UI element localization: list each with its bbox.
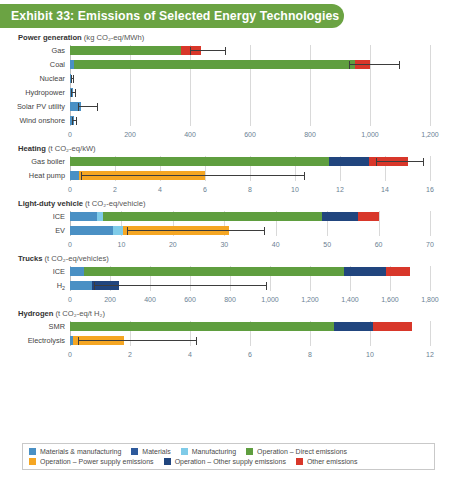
- error-bar-cap: [349, 61, 350, 69]
- error-bar-cap: [266, 282, 267, 290]
- legend-swatch-icon: [246, 448, 253, 455]
- gridline: [430, 45, 431, 126]
- category-label: H2: [57, 280, 65, 294]
- category-label: Hydropower: [25, 87, 65, 98]
- gridline: [310, 45, 311, 126]
- bar-segment: [84, 267, 344, 276]
- error-bar-cap: [72, 117, 73, 125]
- axis-tick-label: 16: [426, 186, 434, 193]
- axis-tick-label: 800: [224, 296, 236, 303]
- axis-tick-label: 400: [144, 296, 156, 303]
- stacked-bar: [70, 116, 430, 125]
- axis-tick-label: 2: [128, 351, 132, 358]
- error-bar: [94, 285, 266, 286]
- bar-row: Coal: [70, 59, 430, 70]
- legend-item: Operation – Direct emissions: [246, 448, 347, 455]
- bars-container: Gas boilerHeat pump: [70, 156, 430, 181]
- bar-segment: [373, 322, 412, 331]
- category-label: Gas: [51, 45, 65, 56]
- bar-segment: [329, 157, 370, 166]
- legend-swatch-icon: [29, 448, 36, 455]
- error-bar-cap: [75, 89, 76, 97]
- chart-legend: Materials & manufacturingMaterialsManufa…: [22, 443, 435, 470]
- axis-tick-label: 14: [381, 186, 389, 193]
- legend-swatch-icon: [131, 448, 138, 455]
- axis-tick-label: 20: [169, 241, 177, 248]
- gridline: [430, 266, 431, 291]
- stacked-bar: [70, 212, 430, 221]
- axis-tick-label: 0: [68, 351, 72, 358]
- axis-tick-label: 70: [426, 241, 434, 248]
- bar-segment: [113, 226, 123, 235]
- category-label: ICE: [53, 211, 65, 222]
- bar-segment: [70, 281, 92, 290]
- bar-row: Electrolysis: [70, 335, 430, 346]
- axis-tick-label: 10: [366, 351, 374, 358]
- chart-panels: Power generation (kg CO₂-eq/MWh)GasCoalN…: [0, 33, 457, 364]
- panel-title: Light-duty vehicle (t CO₂-eq/vehicle): [0, 199, 457, 208]
- chart-panel-hydrogen: Hydrogen (t CO₂-eq/t H₂)SMRElectrolysis0…: [0, 309, 457, 362]
- axis-tick-label: 30: [220, 241, 228, 248]
- plot-area: Gas boilerHeat pump0246810121416: [70, 156, 430, 197]
- x-axis: 02004006008001,0001,2001,4001,6001,800: [70, 294, 430, 307]
- legend-swatch-icon: [29, 458, 36, 465]
- axis-tick-label: 40: [272, 241, 280, 248]
- axis-tick-label: 0: [68, 241, 72, 248]
- error-bar-cap: [97, 103, 98, 111]
- error-bar-cap: [94, 282, 95, 290]
- exhibit-header: Exhibit 33: Emissions of Selected Energy…: [0, 4, 344, 28]
- bar-row: Nuclear: [70, 73, 430, 84]
- error-bar-cap: [376, 158, 377, 166]
- legend-label: Materials: [142, 448, 170, 455]
- gridline: [250, 45, 251, 126]
- axis-tick-label: 12: [336, 186, 344, 193]
- legend-label: Other emissions: [307, 458, 358, 465]
- category-label: Nuclear: [40, 73, 65, 84]
- category-label: Solar PV utility: [17, 101, 65, 112]
- error-bar: [78, 340, 197, 341]
- plot-area: ICEEV010203040506070: [70, 211, 430, 252]
- bar-segment: [70, 157, 329, 166]
- gridline: [190, 45, 191, 126]
- panel-title: Hydrogen (t CO₂-eq/t H₂): [0, 309, 457, 318]
- category-label: Gas boiler: [31, 156, 65, 167]
- legend-label: Operation – Other supply emissions: [175, 458, 286, 465]
- bars-container: SMRElectrolysis: [70, 321, 430, 346]
- page-title: Exhibit 33: Emissions of Selected Energy…: [0, 9, 339, 23]
- legend-item: Operation – Other supply emissions: [164, 458, 286, 465]
- error-bar-cap: [76, 117, 77, 125]
- legend-label: Operation – Direct emissions: [257, 448, 347, 455]
- error-bar-cap: [304, 172, 305, 180]
- bar-segment: [386, 267, 410, 276]
- error-bar: [78, 106, 98, 107]
- axis-tick-label: 600: [244, 131, 256, 138]
- bar-row: Gas boiler: [70, 156, 430, 167]
- axis-tick-label: 6: [248, 351, 252, 358]
- error-bar-cap: [78, 103, 79, 111]
- legend-item: Materials & manufacturing: [29, 448, 121, 455]
- axis-tick-label: 2: [113, 186, 117, 193]
- error-bar-cap: [190, 47, 191, 55]
- bar-row: ICE: [70, 211, 430, 222]
- axis-tick-label: 600: [184, 296, 196, 303]
- axis-tick-label: 10: [291, 186, 299, 193]
- chart-panel-heating: Heating (t CO₂-eq/kW)Gas boilerHeat pump…: [0, 144, 457, 197]
- axis-tick-label: 1,200: [301, 296, 319, 303]
- axis-tick-label: 1,400: [341, 296, 359, 303]
- axis-tick-label: 60: [375, 241, 383, 248]
- error-bar-cap: [423, 158, 424, 166]
- bar-segment: [70, 226, 113, 235]
- bar-segment: [70, 171, 79, 180]
- axis-tick-label: 1,800: [421, 296, 439, 303]
- bar-row: EV: [70, 225, 430, 236]
- chart-panel-power-generation: Power generation (kg CO₂-eq/MWh)GasCoalN…: [0, 33, 457, 142]
- gridline: [430, 211, 431, 236]
- legend-swatch-icon: [181, 448, 188, 455]
- axis-tick-label: 400: [184, 131, 196, 138]
- bars-container: GasCoalNuclearHydropowerSolar PV utility…: [70, 45, 430, 126]
- error-bar-cap: [73, 75, 74, 83]
- axis-tick-label: 8: [248, 186, 252, 193]
- plot-area: SMRElectrolysis024681012: [70, 321, 430, 362]
- bar-segment: [70, 212, 97, 221]
- axis-tick-label: 0: [68, 296, 72, 303]
